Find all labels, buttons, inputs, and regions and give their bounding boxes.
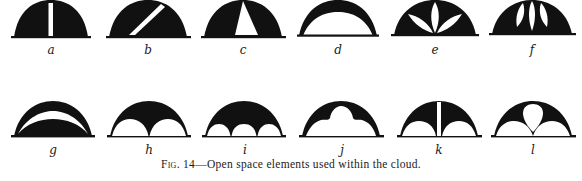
element-label-h: h — [145, 144, 153, 156]
element-d-shape — [297, 0, 379, 37]
element-l-shape — [491, 101, 576, 137]
element-a-shape — [11, 0, 91, 38]
element-b-shape — [106, 0, 191, 38]
figure-number: Fig. 14 — [161, 158, 195, 170]
element-e-shape — [391, 0, 479, 36]
element-f-shape — [489, 0, 576, 35]
element-label-g: g — [49, 144, 57, 156]
figure-caption: Fig. 14—Open space elements used within … — [0, 158, 582, 170]
element-label-k: k — [435, 144, 442, 156]
element-label-a: a — [47, 44, 54, 56]
element-label-e: e — [431, 44, 438, 56]
element-h-shape — [107, 101, 191, 137]
element-label-l: l — [531, 144, 535, 156]
element-label-f: f — [530, 44, 534, 56]
figure-open-space-elements — [0, 0, 582, 181]
figure-caption-text: —Open space elements used within the clo… — [195, 158, 421, 170]
element-label-d: d — [334, 44, 342, 56]
element-label-b: b — [144, 44, 152, 56]
element-i-shape — [202, 101, 286, 137]
element-g-shape — [11, 101, 95, 137]
element-label-c: c — [240, 44, 247, 56]
element-j-shape — [299, 101, 384, 137]
element-k-shape — [397, 101, 482, 137]
element-label-i: i — [243, 144, 247, 156]
element-label-j: j — [340, 144, 344, 156]
element-c-shape — [201, 0, 286, 38]
